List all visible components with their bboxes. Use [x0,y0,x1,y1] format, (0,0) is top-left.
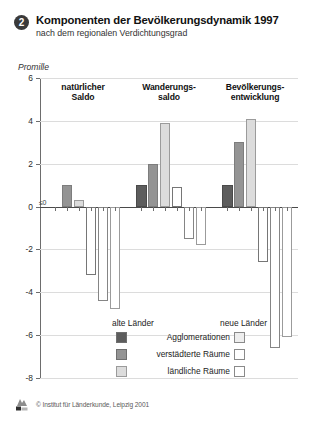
legend-header-old: alte Länder [112,318,154,328]
group-header-2: Bevölkerungs-entwicklung [212,83,298,103]
y-axis-tick [36,164,40,165]
bar [98,207,109,301]
legend-header-new: neue Länder [220,318,267,328]
legend-swatch-new-0 [234,332,245,343]
bar [234,142,245,206]
y-axis-tick [36,78,40,79]
x-axis-tick [67,207,68,211]
bar [246,119,257,207]
legend-swatch-old-1 [116,349,127,360]
x-axis-tick [201,207,202,211]
y-axis-tick [36,292,40,293]
bar [62,185,73,206]
y-axis-tick-label: 6 [28,73,33,83]
x-axis-tick [79,207,80,211]
legend-item: Agglomerationen [108,330,280,347]
copyright-text: © Institut für Länderkunde, Leipzig 2001 [36,401,149,408]
gridline [40,78,298,79]
group-header-1: Wanderungs-saldo [126,83,212,103]
bar [258,207,269,263]
x-axis-tick [177,207,178,211]
bar [196,207,207,246]
x-axis-tick [189,207,190,211]
zero-value-annotation: ≤0 [39,199,46,206]
legend-items: Agglomerationenverstädterte Räumeländlic… [108,330,280,381]
bar [160,123,171,207]
legend-item: ländliche Räume [108,364,280,381]
x-axis-tick [153,207,154,211]
x-axis-tick [239,207,240,211]
bar [86,207,97,276]
y-axis-tick [36,378,40,379]
x-axis-tick [251,207,252,211]
y-axis-tick [36,249,40,250]
legend-item-label: Agglomerationen [134,332,230,343]
chart-footer: © Institut für Länderkunde, Leipzig 2001 [14,396,149,412]
bar [222,185,233,206]
y-axis-tick-label: -2 [26,244,33,254]
chart-title: Komponenten der Bevölkerungsdynamik 1997 [36,14,302,27]
x-axis-tick [91,207,92,211]
y-axis-tick-label: 2 [28,159,33,169]
gridline [40,121,298,122]
x-axis-tick [141,207,142,211]
chart-page: 2 Komponenten der Bevölkerungsdynamik 19… [0,0,312,422]
chart-subtitle: nach dem regionalen Verdichtungsgrad [36,28,302,39]
ifl-logo-icon [14,396,30,412]
x-axis-tick [115,207,116,211]
x-axis-tick [287,207,288,211]
legend-item: verstädterte Räume [108,347,280,364]
y-axis-tick [36,335,40,336]
chart-legend: alte Länder neue Länder Agglomerationenv… [108,318,280,381]
bar [282,207,293,338]
legend-swatch-new-2 [234,366,245,377]
gridline [40,292,298,293]
bar [110,207,121,310]
title-block: Komponenten der Bevölkerungsdynamik 1997… [36,14,302,39]
legend-swatch-new-1 [234,349,245,360]
bar [148,164,159,207]
x-axis-tick [55,207,56,211]
chart-header: 2 Komponenten der Bevölkerungsdynamik 19… [14,14,302,39]
legend-swatch-old-0 [116,332,127,343]
y-axis-tick-label: -6 [26,330,33,340]
y-axis-line [40,78,41,378]
y-axis-tick-label: 0 [28,202,33,212]
bar [172,187,183,206]
y-axis-tick-label: -8 [26,373,33,383]
figure-number-badge: 2 [14,15,29,30]
group-header-0: natürlicherSaldo [40,83,126,103]
y-axis-tick [36,207,40,208]
x-axis-tick [275,207,276,211]
legend-column-headers: alte Länder neue Länder [108,318,280,330]
legend-swatch-old-2 [116,366,127,377]
y-axis-tick [36,121,40,122]
y-axis-unit-label: Promille [18,62,49,72]
x-axis-tick [103,207,104,211]
x-axis-tick [263,207,264,211]
y-axis-tick-label: 4 [28,116,33,126]
x-axis-tick [165,207,166,211]
legend-item-label: ländliche Räume [134,366,230,377]
x-axis-tick [227,207,228,211]
bar [136,185,147,206]
legend-item-label: verstädterte Räume [134,349,230,360]
bar [184,207,195,239]
y-axis-tick-label: -4 [26,287,33,297]
